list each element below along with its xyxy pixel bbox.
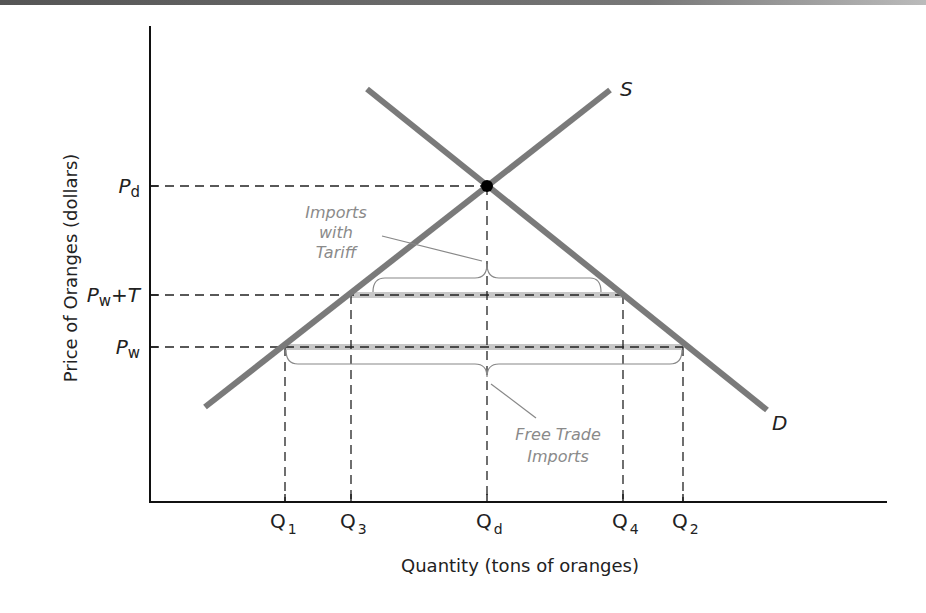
tariff-label-line2: with	[319, 223, 353, 242]
x-tick-q2: Q2	[672, 509, 699, 537]
x-tick-qd: Qd	[476, 509, 503, 537]
tariff-label-line1: Imports	[305, 203, 366, 222]
y-tick-pw: Pw	[116, 335, 140, 362]
free-trade-label-line2: Imports	[527, 447, 588, 466]
y-tick-pd: Pd	[118, 174, 140, 201]
y-tick-pw-plus-t: Pw+T	[87, 283, 142, 310]
x-tick-q1: Q1	[270, 509, 297, 537]
tariff-diagram: Imports with Tariff Free Trade Imports S…	[0, 0, 926, 613]
x-tick-q4: Q4	[612, 509, 639, 537]
tariff-label-line3: Tariff	[316, 243, 359, 262]
free-trade-pointer	[491, 384, 536, 418]
supply-label: S	[620, 77, 633, 101]
x-tick-q3: Q3	[340, 509, 367, 537]
free-trade-label-line1: Free Trade	[515, 425, 601, 444]
equilibrium-point	[481, 180, 493, 192]
demand-curve	[367, 89, 767, 410]
y-axis-label: Price of Oranges (dollars)	[60, 154, 81, 383]
demand-label: D	[772, 411, 787, 435]
supply-curve	[205, 90, 610, 407]
x-axis-label: Quantity (tons of oranges)	[401, 555, 639, 576]
